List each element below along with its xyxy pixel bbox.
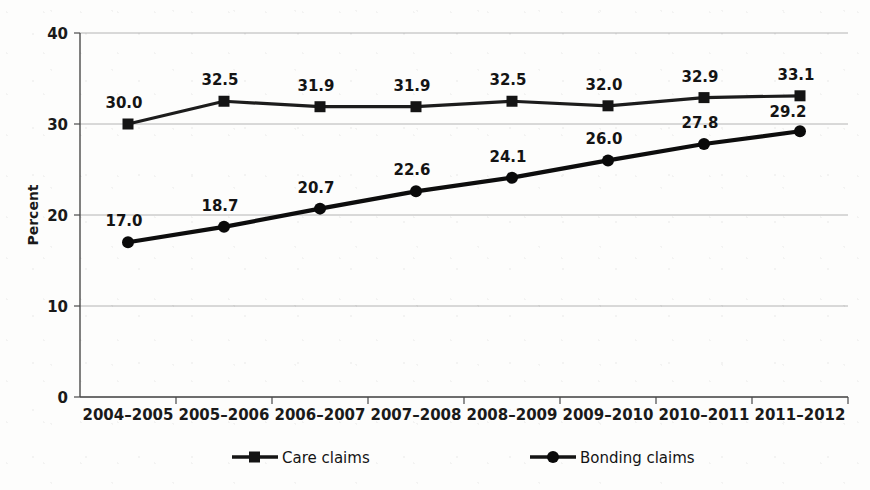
data-point-label: 18.7	[201, 197, 238, 215]
data-point-marker	[218, 221, 230, 233]
data-point-marker	[603, 100, 614, 111]
x-tick-label-6: 2010–2011	[659, 406, 750, 424]
data-point-marker	[122, 236, 134, 248]
data-point-label: 29.2	[769, 103, 806, 121]
legend-label: Care claims	[282, 449, 370, 467]
x-tick-label-2: 2006–2007	[275, 406, 366, 424]
x-tick-label-5: 2009–2010	[563, 406, 654, 424]
legend-label: Bonding claims	[580, 449, 695, 467]
data-point-marker	[410, 185, 422, 197]
legend-item-1[interactable]: Bonding claims	[530, 449, 695, 467]
data-point-marker	[123, 119, 134, 130]
data-point-marker	[795, 90, 806, 101]
line-chart-figure: 010203040 2004–20052005–20062006–2007200…	[0, 0, 870, 490]
y-tick-label-20: 20	[47, 207, 68, 225]
chart-legend: Care claimsBonding claims	[232, 449, 695, 467]
y-axis-title: Percent	[25, 184, 41, 245]
data-point-label: 32.5	[489, 71, 526, 89]
data-point-marker	[507, 96, 518, 107]
data-point-label: 30.0	[105, 94, 142, 112]
legend-item-0[interactable]: Care claims	[232, 449, 370, 467]
x-tick-label-1: 2005–2006	[179, 406, 270, 424]
data-point-marker	[506, 172, 518, 184]
data-point-label: 31.9	[297, 77, 334, 95]
data-point-marker	[411, 101, 422, 112]
y-axis: 010203040	[47, 25, 80, 407]
x-axis: 2004–20052005–20062006–20072007–20082008…	[80, 397, 848, 424]
data-point-marker	[602, 154, 614, 166]
data-point-label: 31.9	[393, 77, 430, 95]
data-point-marker	[314, 203, 326, 215]
data-point-label: 27.8	[681, 114, 718, 132]
y-tick-label-30: 30	[47, 116, 68, 134]
data-point-label: 17.0	[105, 212, 142, 230]
y-tick-label-0: 0	[58, 389, 68, 407]
chart-canvas: 010203040 2004–20052005–20062006–2007200…	[0, 0, 870, 490]
data-point-marker	[315, 101, 326, 112]
data-point-label: 26.0	[585, 130, 622, 148]
data-point-marker	[699, 92, 710, 103]
x-tick-label-0: 2004–2005	[83, 406, 174, 424]
data-point-label: 33.1	[777, 66, 814, 84]
data-point-label: 24.1	[489, 148, 526, 166]
data-point-label: 32.9	[681, 68, 718, 86]
circle-marker-icon	[547, 451, 559, 463]
x-tick-label-4: 2008–2009	[467, 406, 558, 424]
data-point-marker	[794, 125, 806, 137]
data-point-label: 20.7	[297, 179, 334, 197]
data-point-label: 22.6	[393, 161, 430, 179]
y-tick-label-10: 10	[47, 298, 68, 316]
data-point-marker	[698, 138, 710, 150]
square-marker-icon	[249, 452, 260, 463]
y-tick-label-40: 40	[47, 25, 68, 43]
data-point-marker	[219, 96, 230, 107]
x-tick-label-7: 2011–2012	[755, 406, 846, 424]
x-tick-label-3: 2007–2008	[371, 406, 462, 424]
gridlines-group	[80, 33, 848, 397]
data-point-label: 32.5	[201, 71, 238, 89]
data-point-label: 32.0	[585, 76, 622, 94]
